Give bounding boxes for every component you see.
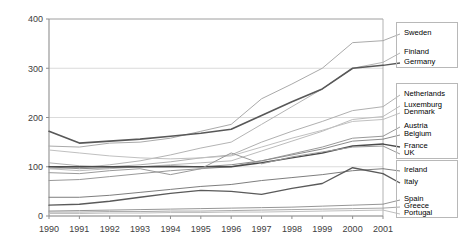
series-line-denmark [49, 119, 383, 158]
legend-label-italy: Italy [404, 178, 418, 186]
x-tick-label-1999: 1999 [312, 224, 332, 234]
legend-label-uk: UK [404, 149, 415, 157]
x-tick-label-1995: 1995 [191, 224, 211, 234]
legend-leader-netherlands [383, 95, 400, 107]
series-line-finland [49, 62, 383, 168]
x-tick-label-1990: 1990 [39, 224, 59, 234]
line-chart: 0100200300400199019911992199319941995199… [0, 0, 469, 250]
legend-leader-austria [383, 127, 400, 136]
y-tick-label-200: 200 [28, 113, 43, 123]
y-tick-label-300: 300 [28, 64, 43, 74]
legend-label-ireland: Ireland [404, 166, 427, 174]
legend-label-germany: Germany [404, 58, 435, 66]
series-line-ireland [49, 169, 383, 198]
x-tick-label-1996: 1996 [221, 224, 241, 234]
legend-label-finland: Finland [404, 48, 429, 56]
legend-leader-denmark [383, 113, 400, 119]
x-tick-label-1997: 1997 [252, 224, 272, 234]
legend-leader-greece [383, 207, 400, 208]
legend-leader-uk [383, 146, 400, 154]
legend-leader-spain [383, 200, 400, 204]
series-line-spain [49, 204, 383, 211]
y-tick-label-0: 0 [38, 211, 43, 221]
x-tick-label-1994: 1994 [160, 224, 180, 234]
legend-label-netherlands: Netherlands [404, 90, 445, 98]
legend-leader-germany [383, 63, 400, 65]
series-line-france [49, 144, 383, 167]
series-line-germany [49, 65, 383, 143]
legend-label-belgium: Belgium [404, 130, 431, 138]
chart-screenshot: 0100200300400199019911992199319941995199… [0, 0, 469, 250]
x-tick-label-1998: 1998 [282, 224, 302, 234]
legend-leader-luxemburg [383, 106, 400, 117]
legend-label-sweden: Sweden [404, 29, 431, 37]
x-tick-label-2000: 2000 [343, 224, 363, 234]
legend-leader-sweden [383, 34, 400, 41]
legend-leader-ireland [383, 169, 400, 171]
legend-leader-belgium [383, 135, 400, 139]
x-tick-label-1991: 1991 [69, 224, 89, 234]
legend-label-portugal: Portugal [404, 209, 432, 217]
y-tick-label-400: 400 [28, 14, 43, 24]
legend-leader-portugal [383, 210, 400, 214]
x-tick-label-1992: 1992 [100, 224, 120, 234]
y-tick-label-100: 100 [28, 162, 43, 172]
x-tick-label-1993: 1993 [130, 224, 150, 234]
legend-leader-italy [383, 174, 400, 183]
legend-label-denmark: Denmark [404, 108, 435, 116]
series-line-austria [49, 136, 383, 180]
legend-leader-finland [383, 53, 400, 62]
legend-leader-france [383, 144, 400, 147]
x-tick-label-2001: 2001 [373, 224, 393, 234]
series-line-netherlands [49, 107, 383, 167]
series-line-uk [49, 146, 383, 175]
